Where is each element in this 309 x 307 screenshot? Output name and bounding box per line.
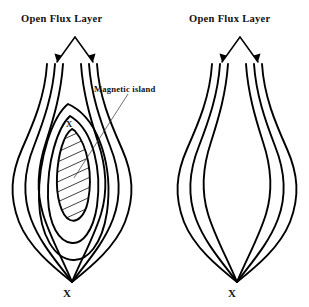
flux-bundle-left-outer-right-panel [178, 64, 237, 282]
title-right: Open Flux Layer [189, 13, 271, 24]
island-leader-line [74, 94, 128, 178]
magnetic-reconnection-diagram: Open Flux Layer X [0, 0, 309, 307]
flux-bundle-right-inner [72, 64, 131, 282]
flux-bundle-right-outer-right-panel [237, 64, 296, 282]
flux-layer-arrow-right [220, 37, 261, 62]
x-point-mark-bottom-left: X [63, 287, 71, 299]
flux-bundle-left-inner [13, 64, 72, 282]
flux-layer-arrow-left [55, 37, 96, 62]
diagram-canvas: Open Flux Layer X [0, 0, 309, 307]
panel-left: Open Flux Layer X [13, 13, 156, 299]
panel-right: Open Flux Layer X [178, 13, 297, 299]
island-label: Magnetic island [94, 84, 156, 94]
x-point-mark-bottom-right: X [228, 287, 236, 299]
title-left: Open Flux Layer [21, 13, 103, 24]
nested-contours-left [39, 104, 108, 260]
